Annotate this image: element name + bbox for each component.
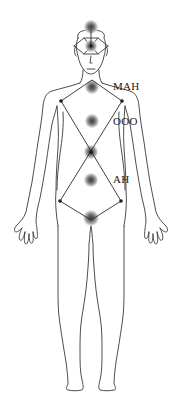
label-mah: MAH [113, 81, 140, 92]
label-ooo: OOO [113, 116, 138, 127]
left-hip-node-icon [58, 199, 62, 203]
navel-glow-icon [83, 172, 99, 188]
energy-centers [82, 19, 100, 227]
label-ah: AH [113, 174, 130, 185]
solar-node-icon [89, 150, 93, 154]
right-shoulder-node-icon [120, 99, 124, 103]
body-diagram: MAH OOO AH [0, 0, 183, 412]
throat-glow-icon [84, 79, 100, 95]
brow-node-icon [90, 45, 93, 48]
left-shoulder-node-icon [59, 99, 63, 103]
right-hip-node-icon [119, 199, 123, 203]
body-outline-svg [0, 0, 183, 412]
heart-glow-icon [84, 113, 100, 129]
root-glow-icon [82, 209, 100, 227]
